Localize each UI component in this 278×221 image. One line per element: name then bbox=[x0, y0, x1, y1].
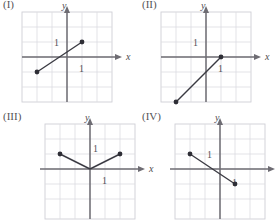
y-unit-label-IV: 1 bbox=[207, 149, 212, 160]
x-unit-label-I: 1 bbox=[79, 63, 84, 74]
x-axis-label-II: x bbox=[264, 51, 270, 62]
panel-label-IV: (IV) bbox=[142, 110, 161, 122]
panel-label-II: (II) bbox=[142, 0, 157, 10]
y-axis-label-III: y bbox=[84, 112, 90, 123]
panel-label-I: (I) bbox=[3, 0, 14, 10]
x-axis-label-I: x bbox=[125, 51, 131, 62]
y-unit-label-III: 1 bbox=[93, 143, 98, 154]
panel-II: (II) x y 1 bbox=[139, 0, 278, 110]
y-unit-label-I: 1 bbox=[54, 37, 59, 48]
x-unit-label-II: 1 bbox=[218, 63, 223, 74]
graph-I: x y 1 1 bbox=[0, 0, 139, 110]
panel-label-III: (III) bbox=[3, 110, 21, 122]
graph-II: x y 1 1 bbox=[139, 0, 278, 110]
y-unit-label-II: 1 bbox=[193, 37, 198, 48]
x-unit-label-III: 1 bbox=[102, 175, 107, 186]
graph-III: x y 1 1 bbox=[0, 108, 160, 221]
panel-III: (III) x y 1 bbox=[0, 108, 160, 221]
four-graph-figure: (I) x y bbox=[0, 0, 278, 221]
y-axis-label-II: y bbox=[200, 0, 206, 11]
graph-IV: x y 1 1 bbox=[139, 108, 278, 221]
panel-I: (I) x y bbox=[0, 0, 139, 110]
y-axis-label-IV: y bbox=[214, 112, 220, 123]
panel-IV: (IV) x y 1 bbox=[139, 108, 278, 221]
y-axis-label-I: y bbox=[61, 0, 67, 11]
